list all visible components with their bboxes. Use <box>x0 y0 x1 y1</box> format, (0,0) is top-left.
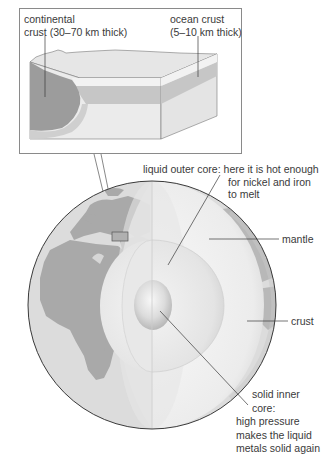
mantle-label-text: mantle <box>282 233 314 246</box>
mantle-label: mantle <box>282 233 314 246</box>
inner-core <box>134 280 172 330</box>
outer-core-label-line-3: to melt <box>143 188 319 201</box>
ocean-crust-label-line-2: (5–10 km thick) <box>170 26 242 39</box>
inner-core-label-line-3: high pressure <box>236 415 320 429</box>
outer-core-label-line-2: for nickel and iron <box>143 176 319 189</box>
inner-core-label-line-2: core: <box>236 402 320 416</box>
inner-core-label-line-4: makes the liquid <box>236 429 320 443</box>
crust-label: crust <box>291 315 314 328</box>
ocean-crust-label: ocean crust (5–10 km thick) <box>170 13 242 38</box>
front-ocean-crust-band <box>76 86 161 104</box>
continental-crust-label: continental crust (30–70 km thick) <box>24 13 127 38</box>
continental-crust-label-line-1: continental <box>24 13 127 26</box>
continental-crust-label-line-2: crust (30–70 km thick) <box>24 26 127 39</box>
front-ocean-water-layer <box>72 78 161 86</box>
outer-core-label: liquid outer core: here it is hot enough… <box>143 163 319 201</box>
inner-core-label-line-1: solid inner <box>236 388 320 402</box>
crust-label-text: crust <box>291 315 314 328</box>
inner-core-label-line-5: metals solid again <box>236 442 320 456</box>
ocean-crust-label-line-1: ocean crust <box>170 13 242 26</box>
outer-core-label-line-1: liquid outer core: here it is hot enough <box>143 163 319 176</box>
inner-core-label: solid inner core: high pressure makes th… <box>236 388 320 456</box>
inset-location-marker <box>112 232 128 241</box>
